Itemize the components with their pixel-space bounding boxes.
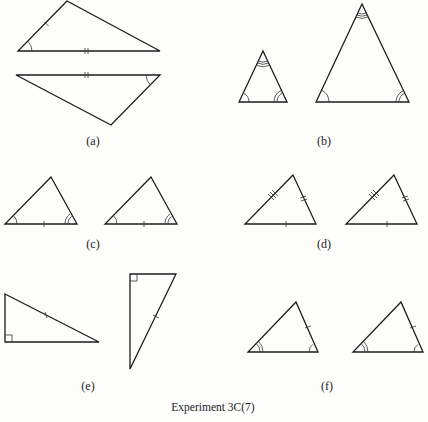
panel-label-f: (f) <box>321 379 333 394</box>
panel-label-e: (e) <box>81 379 94 394</box>
triangle-b2 <box>316 4 409 102</box>
triangle-e1 <box>5 294 99 342</box>
triangle-c1 <box>5 177 77 227</box>
triangle-d1 <box>245 175 316 227</box>
triangle-c2 <box>105 177 177 227</box>
triangle-f1 <box>248 302 318 352</box>
triangle-f2 <box>353 302 423 352</box>
panel-label-b: (b) <box>317 134 331 149</box>
figure-experiment-3c7: (a) (b) (c) (d) (e) (f) Experiment 3C(7) <box>0 0 428 422</box>
triangle-b1 <box>239 51 287 102</box>
triangle-diagram <box>0 0 428 422</box>
panel-label-a: (a) <box>86 134 99 149</box>
panel-label-c: (c) <box>86 237 99 252</box>
triangle-a1 <box>18 1 160 54</box>
panel-label-d: (d) <box>317 237 331 252</box>
triangle-a2 <box>16 72 160 125</box>
figure-caption: Experiment 3C(7) <box>171 401 254 413</box>
triangle-d2 <box>346 175 417 227</box>
triangle-e2 <box>130 274 176 369</box>
